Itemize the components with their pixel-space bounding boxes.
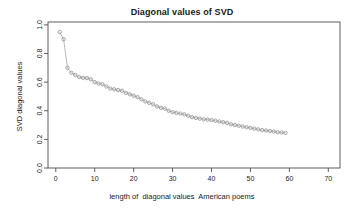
x-tick-label: 10	[91, 175, 99, 182]
y-tick-label: 0.0	[36, 163, 43, 173]
x-axis-ticks: 010203040506070	[54, 168, 332, 182]
plot-frame	[48, 22, 340, 168]
svd-diagonal-values-chart: Diagonal values of SVD SVD diagonal valu…	[0, 0, 364, 208]
x-tick-label: 70	[324, 175, 332, 182]
y-axis-ticks: 0.00.20.40.60.81.0	[36, 20, 48, 173]
x-tick-label: 30	[169, 175, 177, 182]
y-tick-label: 0.8	[36, 49, 43, 59]
data-points	[58, 30, 287, 134]
y-tick-label: 0.6	[36, 77, 43, 87]
y-tick-label: 1.0	[36, 20, 43, 30]
x-tick-label: 60	[285, 175, 293, 182]
x-tick-label: 50	[247, 175, 255, 182]
y-tick-label: 0.2	[36, 134, 43, 144]
x-tick-label: 40	[208, 175, 216, 182]
data-point	[58, 30, 61, 33]
plot-canvas: 010203040506070 0.00.20.40.60.81.0	[0, 0, 364, 208]
x-tick-label: 0	[54, 175, 58, 182]
data-line	[60, 32, 286, 133]
y-tick-label: 0.4	[36, 106, 43, 116]
x-tick-label: 20	[130, 175, 138, 182]
